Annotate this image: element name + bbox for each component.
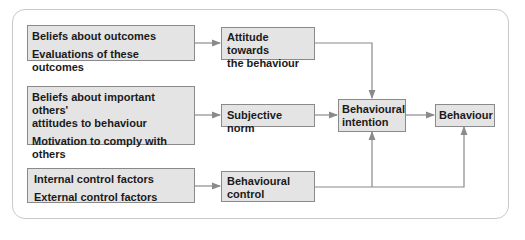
input-line: attitudes to behaviour xyxy=(32,117,190,130)
input-box-outcomes: Beliefs about outcomes Evaluations of th… xyxy=(27,25,195,61)
control-line: control xyxy=(227,188,309,201)
input-line: others xyxy=(32,148,190,161)
attitude-line: the behaviour xyxy=(227,57,309,70)
input-line: Evaluations of these outcomes xyxy=(32,48,190,74)
input-line: Motivation to comply with xyxy=(32,135,190,148)
control-line: Behavioural xyxy=(227,175,309,188)
behaviour-label: Behaviour xyxy=(439,109,491,122)
intention-line: intention xyxy=(342,116,402,129)
behavioural-control-box: Behavioural control xyxy=(221,171,315,202)
input-box-normative: Beliefs about important others' attitude… xyxy=(27,86,195,145)
behavioural-intention-box: Behavioural intention xyxy=(338,99,406,132)
subjective-norm-label: Subjective norm xyxy=(227,109,309,135)
intention-line: Behavioural xyxy=(342,103,402,116)
input-line: Internal control factors xyxy=(34,173,188,186)
behaviour-box: Behaviour xyxy=(435,104,495,127)
attitude-box: Attitude towards the behaviour xyxy=(221,27,315,60)
input-line: Beliefs about important others' xyxy=(32,91,190,117)
input-line: Beliefs about outcomes xyxy=(32,30,190,43)
input-box-control-factors: Internal control factors External contro… xyxy=(27,168,195,203)
attitude-line: Attitude towards xyxy=(227,31,309,57)
input-line: External control factors xyxy=(34,191,188,204)
subjective-norm-box: Subjective norm xyxy=(221,104,315,127)
